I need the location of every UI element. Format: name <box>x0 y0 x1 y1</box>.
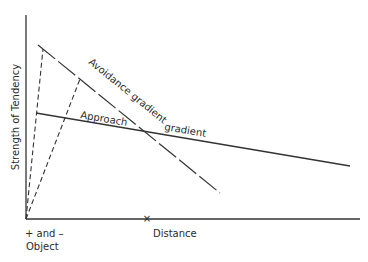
construction-line-2 <box>26 79 80 219</box>
y-axis-label: Strength of Tendency <box>10 64 21 170</box>
x-axis-marker: × <box>143 213 151 224</box>
gradient-label: gradient <box>164 121 207 139</box>
origin-label-line1: + and – <box>25 228 64 239</box>
approach-avoidance-diagram: Avoidance gradient Approach gradient Str… <box>0 0 368 262</box>
origin-label-line2: Object <box>26 241 59 252</box>
x-axis-label: Distance <box>153 228 197 239</box>
approach-gradient-line <box>36 113 350 166</box>
construction-line-1 <box>26 49 43 219</box>
avoidance-gradient-line <box>38 45 220 193</box>
